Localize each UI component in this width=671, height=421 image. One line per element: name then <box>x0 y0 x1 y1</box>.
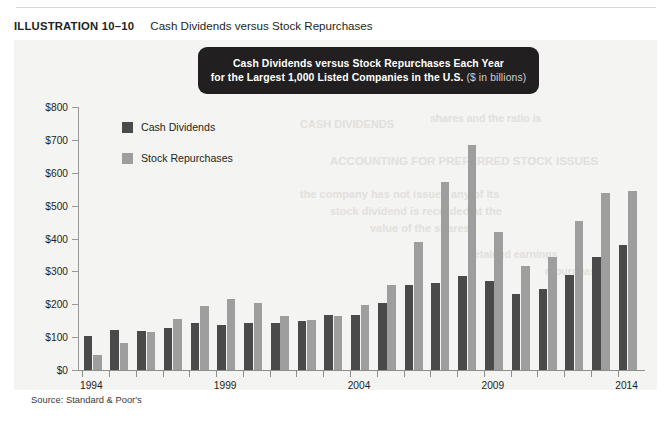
bar-stock-repurchases <box>494 232 503 370</box>
x-axis-tick-mark <box>618 371 619 377</box>
y-axis-labels: $0$100$200$300$400$500$600$700$800 <box>0 0 68 421</box>
y-axis-tick-label: $400 <box>45 233 68 244</box>
bar-stock-repurchases <box>628 191 637 370</box>
bar-cash-dividends <box>164 328 173 370</box>
bar-stock-repurchases <box>441 182 450 370</box>
y-axis-tick-mark <box>72 107 78 108</box>
bar-cash-dividends <box>244 323 253 370</box>
x-axis-tick-mark <box>591 371 592 377</box>
bar-stock-repurchases <box>173 319 182 370</box>
bar-cash-dividends <box>431 283 440 370</box>
bar-stock-repurchases <box>601 193 610 370</box>
y-axis-tick-mark <box>72 173 78 174</box>
chart-legend: Cash Dividends Stock Repurchases <box>122 120 233 182</box>
banner-line-2: for the Largest 1,000 Listed Companies i… <box>211 71 527 85</box>
page-top-rule <box>16 7 656 8</box>
chart-title-banner: Cash Dividends versus Stock Repurchases … <box>198 47 539 94</box>
y-axis-tick-mark <box>72 304 78 305</box>
legend-label-stock-repurchases: Stock Repurchases <box>141 152 233 164</box>
legend-swatch-dividends-icon <box>122 122 133 133</box>
banner-line-1: Cash Dividends versus Stock Repurchases … <box>233 57 504 71</box>
y-axis-tick-mark <box>72 140 78 141</box>
x-axis-tick-mark <box>511 371 512 377</box>
x-axis-tick-mark <box>404 371 405 377</box>
x-axis-tick-mark <box>189 371 190 377</box>
bar-stock-repurchases <box>280 316 289 370</box>
bar-cash-dividends <box>619 245 628 370</box>
bar-cash-dividends <box>84 336 93 370</box>
x-axis-tick-mark <box>270 371 271 377</box>
x-axis-tick-mark <box>377 371 378 377</box>
bar-stock-repurchases <box>548 257 557 370</box>
bar-stock-repurchases <box>575 221 584 370</box>
bar-cash-dividends <box>271 323 280 370</box>
bar-cash-dividends <box>539 289 548 370</box>
bar-cash-dividends <box>565 275 574 370</box>
y-axis-tick-label: $200 <box>45 299 68 310</box>
x-axis-tick-mark <box>109 371 110 377</box>
bar-stock-repurchases <box>254 303 263 370</box>
x-axis-tick-label: 1994 <box>80 380 103 391</box>
bar-cash-dividends <box>298 321 307 370</box>
y-axis-tick-mark <box>72 271 78 272</box>
y-axis-tick-label: $0 <box>57 365 68 376</box>
x-axis-tick-mark <box>82 371 83 377</box>
bar-stock-repurchases <box>120 343 129 370</box>
y-axis-tick-mark <box>72 239 78 240</box>
banner-line-2-main: for the Largest 1,000 Listed Companies i… <box>211 72 464 83</box>
x-axis-tick-mark <box>216 371 217 377</box>
x-axis-tick-mark <box>484 371 485 377</box>
bar-cash-dividends <box>324 315 333 370</box>
x-axis-tick-label: 2014 <box>615 380 638 391</box>
x-axis-tick-mark <box>296 371 297 377</box>
illustration-title: Cash Dividends versus Stock Repurchases <box>150 19 372 32</box>
x-axis-tick-mark <box>163 371 164 377</box>
x-axis-tick-mark <box>136 371 137 377</box>
bar-stock-repurchases <box>387 285 396 370</box>
source-note: Source: Standard & Poor's <box>31 394 142 405</box>
bar-stock-repurchases <box>227 299 236 370</box>
legend-item-cash-dividends: Cash Dividends <box>122 120 233 134</box>
banner-units: ($ in billions) <box>466 72 526 83</box>
legend-label-cash-dividends: Cash Dividends <box>141 121 215 133</box>
bar-stock-repurchases <box>200 306 209 370</box>
y-axis-tick-mark <box>72 206 78 207</box>
bar-stock-repurchases <box>521 266 530 370</box>
bar-cash-dividends <box>512 294 521 370</box>
bar-stock-repurchases <box>468 145 477 370</box>
x-axis-tick-label: 2009 <box>481 380 504 391</box>
x-axis-tick-mark <box>323 371 324 377</box>
x-axis-tick-label: 1999 <box>214 380 237 391</box>
legend-swatch-repurchases-icon <box>122 153 133 164</box>
x-axis-tick-mark <box>564 371 565 377</box>
y-axis-tick-label: $600 <box>45 167 68 178</box>
bar-cash-dividends <box>378 303 387 370</box>
y-axis-tick-label: $100 <box>45 332 68 343</box>
x-axis-tick-mark <box>457 371 458 377</box>
bar-cash-dividends <box>351 315 360 370</box>
bar-cash-dividends <box>110 330 119 370</box>
x-axis-tick-mark <box>350 371 351 377</box>
bar-stock-repurchases <box>307 320 316 370</box>
bar-stock-repurchases <box>147 332 156 370</box>
bar-stock-repurchases <box>334 316 343 370</box>
y-axis-tick-label: $300 <box>45 266 68 277</box>
x-axis-tick-mark <box>243 371 244 377</box>
bar-cash-dividends <box>485 281 494 370</box>
y-axis-tick-mark <box>72 337 78 338</box>
bar-cash-dividends <box>191 323 200 370</box>
x-axis-tick-mark <box>537 371 538 377</box>
bar-stock-repurchases <box>361 305 370 370</box>
bar-cash-dividends <box>458 276 467 370</box>
x-axis-tick-mark <box>430 371 431 377</box>
bar-stock-repurchases <box>93 355 102 370</box>
bar-cash-dividends <box>405 285 414 370</box>
bar-cash-dividends <box>592 257 601 370</box>
y-axis-tick-label: $700 <box>45 134 68 145</box>
bar-cash-dividends <box>137 331 146 370</box>
x-axis-tick-label: 2004 <box>348 380 371 391</box>
y-axis-tick-label: $500 <box>45 200 68 211</box>
bar-stock-repurchases <box>414 242 423 370</box>
y-axis-tick-label: $800 <box>45 102 68 113</box>
bar-cash-dividends <box>217 325 226 370</box>
